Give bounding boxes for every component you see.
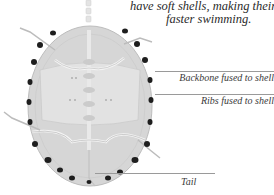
label-tail-text: Tail [181, 176, 196, 187]
label-ribs-text: Ribs fused to shell [201, 95, 274, 106]
leader-line-tail [95, 173, 215, 174]
neck-vertebrae [86, 0, 91, 22]
label-backbone-text: Backbone fused to shell [179, 72, 274, 83]
